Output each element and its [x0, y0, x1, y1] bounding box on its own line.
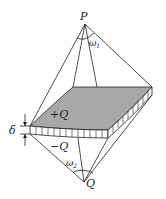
omega2-label: ω2	[66, 158, 77, 169]
double-layer-diagram: P Q ω1 ω2 +Q −Q δ	[0, 0, 166, 199]
point-p-label: P	[79, 10, 88, 23]
negative-charge-label: −Q	[50, 140, 68, 153]
thickness-label: δ	[9, 124, 16, 137]
omega1-label: ω1	[89, 38, 100, 49]
thickness-arrows	[20, 114, 30, 146]
point-q-label: Q	[86, 177, 95, 190]
diagram-canvas: P Q ω1 ω2 +Q −Q δ	[0, 0, 166, 199]
positive-charge-label: +Q	[50, 108, 68, 121]
